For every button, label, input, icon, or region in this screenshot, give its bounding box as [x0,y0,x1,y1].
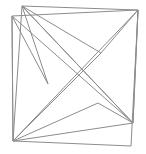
chord-notchright-to-bottomleft [13,53,101,141]
chord-lefttop-to-bottomright [12,16,133,123]
chord-topright-to-bottomleft [13,10,138,141]
pinwheel-star-outline [12,6,138,141]
figure-canvas [0,0,146,154]
line-drawing-svg [0,0,146,154]
chord-topleft-to-bottomright-stroke [22,6,133,123]
